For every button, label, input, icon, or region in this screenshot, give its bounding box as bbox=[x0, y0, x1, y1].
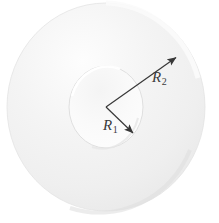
radius-label-r2-subscript: 2 bbox=[162, 76, 167, 87]
annulus-figure: R2 R1 bbox=[0, 0, 219, 223]
radius-label-r2-symbol: R bbox=[152, 69, 161, 85]
radius-label-r2: R2 bbox=[152, 70, 166, 85]
radius-label-r1: R1 bbox=[103, 118, 117, 133]
annulus-graphic bbox=[0, 0, 219, 223]
radius-label-r1-symbol: R bbox=[103, 117, 112, 133]
radius-label-r1-subscript: 1 bbox=[113, 124, 118, 135]
